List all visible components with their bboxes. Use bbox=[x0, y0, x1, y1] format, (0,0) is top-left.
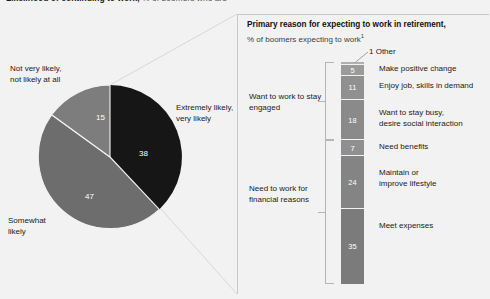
bar-label-stay-busy: Want to stay busy, desire social interac… bbox=[379, 108, 481, 129]
bar-value-stay-busy: 18 bbox=[341, 116, 364, 125]
bar-label-maintain-lifestyle: Maintain or improve lifestyle bbox=[379, 168, 481, 189]
bar-value-enjoy-job: 11 bbox=[341, 83, 364, 92]
bar-label-enjoy-job: Enjoy job, skills in demand bbox=[379, 81, 473, 92]
bar-label-meet-expenses: Meet expenses bbox=[379, 221, 433, 232]
stacked-bar: 5 11 18 7 24 35 bbox=[341, 62, 364, 284]
bar-label-need-benefits: Need benefits bbox=[379, 142, 428, 153]
exhibit-canvas: Likelihood of continuing to work, % of b… bbox=[0, 0, 490, 299]
bar-value-meet-expenses: 35 bbox=[341, 242, 364, 251]
bracket-tick-financial-reasons bbox=[318, 212, 326, 213]
group-label-stay-engaged: Want to work to stay engaged bbox=[249, 92, 323, 113]
bracket-financial-reasons bbox=[325, 140, 334, 284]
bar-value-make-positive-change: 5 bbox=[341, 66, 364, 75]
group-label-financial-reasons: Need to work for financial reasons bbox=[249, 184, 327, 205]
bracket-stay-engaged bbox=[325, 62, 334, 140]
bar-label-make-positive-change: Make positive change bbox=[379, 64, 456, 75]
bar-value-need-benefits: 7 bbox=[341, 144, 364, 153]
bar-value-maintain-lifestyle: 24 bbox=[341, 178, 364, 187]
